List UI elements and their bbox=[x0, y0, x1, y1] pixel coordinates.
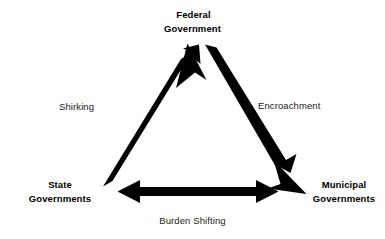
diagram-canvas: Federal Government State Governments Mun… bbox=[0, 0, 385, 239]
edge-label-shirking: Shirking bbox=[59, 101, 94, 113]
edge-label-burden-shifting: Burden Shifting bbox=[0, 215, 385, 227]
edge-label-encroachment: Encroachment bbox=[258, 100, 320, 112]
node-federal-line2: Government bbox=[0, 22, 385, 36]
burden-shifting-arrow bbox=[118, 180, 279, 203]
node-state-line2: Governments bbox=[8, 192, 112, 206]
node-municipal-line1: Municipal bbox=[305, 178, 383, 192]
shirking-arrow bbox=[103, 44, 207, 187]
node-state-line1: State bbox=[8, 178, 112, 192]
encroachment-arrow bbox=[205, 45, 307, 195]
node-municipal-line2: Governments bbox=[305, 192, 383, 206]
node-federal-line1: Federal bbox=[2, 8, 385, 22]
node-state-governments: State Governments bbox=[8, 178, 112, 205]
node-federal-government: Federal Government bbox=[0, 8, 385, 35]
node-municipal-governments: Municipal Governments bbox=[305, 178, 383, 205]
